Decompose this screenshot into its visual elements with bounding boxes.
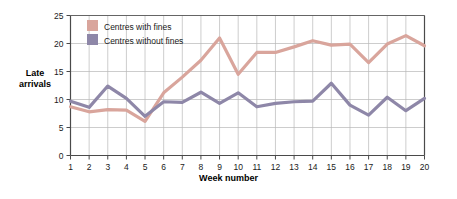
svg-text:25: 25 (54, 11, 64, 21)
svg-text:5: 5 (59, 123, 64, 133)
svg-text:3: 3 (105, 162, 110, 172)
svg-text:12: 12 (271, 162, 281, 172)
legend-label-2: Centres without fines (104, 36, 183, 46)
chart-container: Late arrivals 0510152025 123456789101112… (0, 0, 457, 199)
line-chart-plot: 0510152025 12345678910111213141516171819… (0, 0, 457, 199)
svg-text:6: 6 (161, 162, 166, 172)
svg-text:20: 20 (54, 39, 64, 49)
svg-text:4: 4 (124, 162, 129, 172)
svg-text:16: 16 (345, 162, 355, 172)
svg-text:0: 0 (59, 151, 64, 161)
svg-text:18: 18 (383, 162, 393, 172)
svg-text:5: 5 (143, 162, 148, 172)
data-series-group (71, 36, 425, 122)
svg-text:7: 7 (180, 162, 185, 172)
svg-text:17: 17 (364, 162, 374, 172)
svg-text:2: 2 (87, 162, 92, 172)
svg-text:15: 15 (327, 162, 337, 172)
svg-text:13: 13 (289, 162, 299, 172)
svg-text:8: 8 (199, 162, 204, 172)
svg-text:1: 1 (68, 162, 73, 172)
y-axis-ticks: 0510152025 (54, 11, 70, 161)
legend-swatch-2 (87, 34, 98, 45)
svg-text:20: 20 (420, 162, 430, 172)
svg-text:19: 19 (401, 162, 411, 172)
chart-legend: Centres with finesCentres without fines (87, 20, 183, 46)
x-axis-ticks: 1234567891011121314151617181920 (68, 156, 429, 172)
x-axis-title: Week number (0, 173, 457, 183)
svg-text:9: 9 (217, 162, 222, 172)
svg-text:10: 10 (233, 162, 243, 172)
svg-text:10: 10 (54, 95, 64, 105)
series-line-1 (71, 36, 425, 122)
svg-text:14: 14 (308, 162, 318, 172)
legend-label-1: Centres with fines (104, 22, 172, 32)
svg-text:11: 11 (252, 162, 261, 172)
svg-text:15: 15 (54, 67, 64, 77)
legend-swatch-1 (87, 20, 98, 31)
